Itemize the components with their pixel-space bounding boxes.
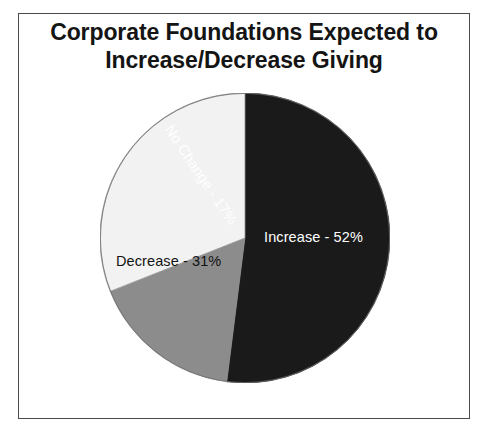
pie-label-increase: Increase - 52% — [264, 229, 363, 245]
chart-title: Corporate Foundations Expected to Increa… — [26, 18, 462, 74]
pie-chart-figure: Corporate Foundations Expected to Increa… — [0, 0, 488, 437]
chart-title-line-2: Increase/Decrease Giving — [26, 46, 462, 74]
pie-label-decrease: Decrease - 31% — [116, 253, 221, 269]
chart-title-line-1: Corporate Foundations Expected to — [26, 18, 462, 46]
